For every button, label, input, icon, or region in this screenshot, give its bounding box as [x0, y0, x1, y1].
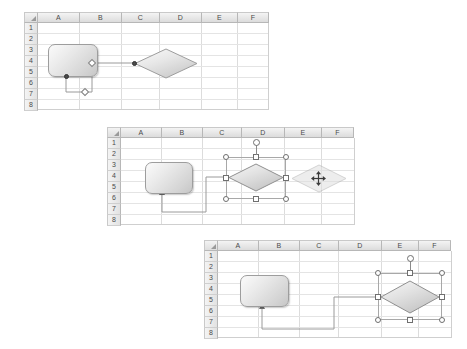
column-header-e[interactable]: E [285, 127, 322, 138]
row-header-column: 1 2 3 4 5 6 7 8 [204, 251, 218, 339]
column-header-d[interactable]: D [242, 127, 285, 138]
row-header-column: 1 2 3 4 5 6 7 8 [107, 138, 121, 226]
spreadsheet-panel-2[interactable]: A B C D E F 1 2 3 4 5 6 7 8 [107, 127, 355, 225]
row-header-6[interactable]: 6 [107, 193, 121, 204]
grid-cells[interactable] [218, 251, 452, 338]
row-header-8[interactable]: 8 [107, 215, 121, 226]
column-header-row: A B C D E F [107, 127, 355, 138]
row-header-3[interactable]: 3 [24, 45, 38, 56]
row-header-5[interactable]: 5 [24, 67, 38, 78]
row-header-5[interactable]: 5 [204, 295, 218, 306]
row-header-2[interactable]: 2 [204, 262, 218, 273]
row-header-4[interactable]: 4 [107, 171, 121, 182]
row-header-2[interactable]: 2 [107, 149, 121, 160]
column-header-row: A B C D E F [24, 12, 269, 23]
row-header-4[interactable]: 4 [204, 284, 218, 295]
select-all-triangle-icon[interactable] [204, 240, 218, 251]
column-header-c[interactable]: C [203, 127, 242, 138]
row-header-6[interactable]: 6 [204, 306, 218, 317]
column-header-a[interactable]: A [38, 12, 80, 23]
row-header-3[interactable]: 3 [204, 273, 218, 284]
column-header-d[interactable]: D [339, 240, 382, 251]
column-header-f[interactable]: F [419, 240, 451, 251]
row-header-2[interactable]: 2 [24, 34, 38, 45]
grid-cells[interactable] [38, 23, 269, 110]
column-header-a[interactable]: A [218, 240, 259, 251]
column-header-f[interactable]: F [238, 12, 269, 23]
screenshot-root: { "app": { "context": "spreadsheet-flowc… [0, 0, 467, 349]
row-header-7[interactable]: 7 [204, 317, 218, 328]
column-header-d[interactable]: D [160, 12, 202, 23]
column-header-row: A B C D E F [204, 240, 452, 251]
row-header-4[interactable]: 4 [24, 56, 38, 67]
spreadsheet-panel-3[interactable]: A B C D E F 1 2 3 4 5 6 7 8 [204, 240, 452, 338]
grid-cells[interactable] [121, 138, 355, 225]
row-header-7[interactable]: 7 [24, 89, 38, 100]
row-header-1[interactable]: 1 [24, 23, 38, 34]
row-header-7[interactable]: 7 [107, 204, 121, 215]
column-header-b[interactable]: B [80, 12, 122, 23]
column-header-b[interactable]: B [162, 127, 203, 138]
spreadsheet-panel-1[interactable]: A B C D E F 1 2 3 4 5 6 7 8 [24, 12, 269, 110]
column-header-b[interactable]: B [259, 240, 300, 251]
select-all-triangle-icon[interactable] [107, 127, 121, 138]
row-header-5[interactable]: 5 [107, 182, 121, 193]
column-header-f[interactable]: F [322, 127, 354, 138]
column-header-c[interactable]: C [122, 12, 160, 23]
column-header-a[interactable]: A [121, 127, 162, 138]
select-all-triangle-icon[interactable] [24, 12, 38, 23]
row-header-6[interactable]: 6 [24, 78, 38, 89]
column-header-e[interactable]: E [382, 240, 419, 251]
column-header-e[interactable]: E [202, 12, 238, 23]
row-header-3[interactable]: 3 [107, 160, 121, 171]
row-header-column: 1 2 3 4 5 6 7 8 [24, 23, 38, 111]
row-header-1[interactable]: 1 [107, 138, 121, 149]
row-header-8[interactable]: 8 [204, 328, 218, 339]
column-header-c[interactable]: C [300, 240, 339, 251]
row-header-8[interactable]: 8 [24, 100, 38, 111]
row-header-1[interactable]: 1 [204, 251, 218, 262]
